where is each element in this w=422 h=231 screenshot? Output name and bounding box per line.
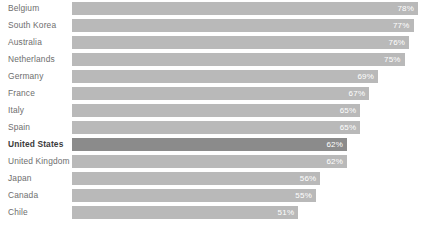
bar: 78% (72, 2, 418, 15)
bar: 56% (72, 172, 320, 185)
bar: 76% (72, 36, 409, 49)
category-label: Chile (8, 204, 28, 221)
bar-value-label: 78% (397, 2, 414, 15)
bar-value-label: 76% (389, 36, 406, 49)
bar-track: 56% (72, 172, 418, 185)
bar-track: 76% (72, 36, 418, 49)
category-label: Netherlands (8, 51, 55, 68)
category-label: Italy (8, 102, 24, 119)
bar-chart-row: Italy65% (0, 102, 422, 119)
category-label: France (8, 85, 35, 102)
bar-value-label: 69% (357, 70, 374, 83)
bar-chart-row: United States62% (0, 136, 422, 153)
bar-track: 67% (72, 87, 418, 100)
bar: 55% (72, 189, 316, 202)
bar-chart-row: France67% (0, 85, 422, 102)
bar-chart-row: Japan56% (0, 170, 422, 187)
bar: 77% (72, 19, 414, 32)
bar-value-label: 62% (326, 155, 343, 168)
category-label: Germany (8, 68, 44, 85)
bar-track: 55% (72, 189, 418, 202)
category-label: Canada (8, 187, 38, 204)
bar-track: 65% (72, 104, 418, 117)
bar-chart-row: Australia76% (0, 34, 422, 51)
bar-track: 51% (72, 206, 418, 219)
category-label: Australia (8, 34, 42, 51)
bar: 65% (72, 121, 360, 134)
bar-chart-rows: Belgium78%South Korea77%Australia76%Neth… (0, 0, 422, 221)
category-label: Japan (8, 170, 32, 187)
bar-value-label: 77% (393, 19, 410, 32)
bar-chart-row: Canada55% (0, 187, 422, 204)
bar-value-label: 56% (300, 172, 317, 185)
bar: 62% (72, 138, 347, 151)
bar-track: 62% (72, 138, 418, 151)
bar: 65% (72, 104, 360, 117)
category-label: Spain (8, 119, 30, 136)
category-label: United Kingdom (8, 153, 70, 170)
bar-track: 69% (72, 70, 418, 83)
bar-track: 65% (72, 121, 418, 134)
bar-track: 78% (72, 2, 418, 15)
category-label: Belgium (8, 0, 39, 17)
bar-track: 62% (72, 155, 418, 168)
bar-chart-row: Netherlands75% (0, 51, 422, 68)
bar-chart-row: Spain65% (0, 119, 422, 136)
bar-value-label: 62% (326, 138, 343, 151)
bar-chart: Belgium78%South Korea77%Australia76%Neth… (0, 0, 422, 231)
bar-value-label: 67% (349, 87, 366, 100)
bar: 62% (72, 155, 347, 168)
category-label: South Korea (8, 17, 56, 34)
bar-chart-row: Germany69% (0, 68, 422, 85)
bar-chart-row: Chile51% (0, 204, 422, 221)
bar-chart-row: South Korea77% (0, 17, 422, 34)
bar-value-label: 51% (278, 206, 295, 219)
category-label: United States (8, 136, 63, 153)
bar-track: 77% (72, 19, 418, 32)
bar: 69% (72, 70, 378, 83)
bar-chart-row: United Kingdom62% (0, 153, 422, 170)
bar-value-label: 75% (384, 53, 401, 66)
bar-value-label: 65% (340, 121, 357, 134)
bar-track: 75% (72, 53, 418, 66)
bar: 51% (72, 206, 298, 219)
bar-chart-row: Belgium78% (0, 0, 422, 17)
bar: 67% (72, 87, 369, 100)
bar-value-label: 55% (295, 189, 312, 202)
bar: 75% (72, 53, 405, 66)
bar-value-label: 65% (340, 104, 357, 117)
